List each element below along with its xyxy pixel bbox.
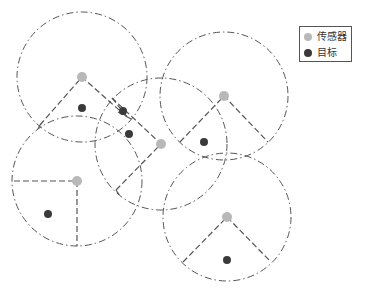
legend-label-sensor: 传感器 bbox=[317, 31, 347, 43]
legend: 传感器 目标 bbox=[299, 26, 352, 62]
target-node bbox=[125, 130, 133, 138]
target-node bbox=[200, 138, 208, 146]
target-node bbox=[223, 256, 231, 264]
target-node bbox=[44, 210, 52, 218]
sensor-node bbox=[219, 91, 229, 101]
targets bbox=[44, 104, 231, 264]
sensors bbox=[72, 72, 232, 222]
legend-item-sensor: 传感器 bbox=[304, 30, 347, 44]
sensing-sectors bbox=[14, 77, 271, 262]
target-dot-icon bbox=[304, 49, 312, 57]
legend-label-target: 目标 bbox=[317, 47, 337, 59]
sector-boundary bbox=[183, 217, 271, 262]
sector-boundary bbox=[180, 96, 268, 142]
sensor-node bbox=[72, 176, 82, 186]
target-node bbox=[119, 107, 127, 115]
sensor-node bbox=[156, 139, 166, 149]
sensor-node bbox=[77, 72, 87, 82]
target-node bbox=[78, 104, 86, 112]
sensor-node bbox=[222, 212, 232, 222]
sensing-range-circles bbox=[12, 12, 291, 281]
sensor-dot-icon bbox=[304, 33, 312, 41]
legend-item-target: 目标 bbox=[304, 46, 337, 60]
